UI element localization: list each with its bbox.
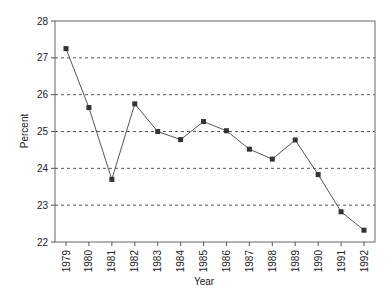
data-point-marker	[293, 137, 298, 142]
x-tick-label: 1988	[267, 250, 278, 273]
y-tick-label: 28	[37, 16, 49, 27]
x-tick-label: 1991	[336, 250, 347, 273]
y-tick-label: 26	[37, 89, 49, 100]
x-tick-label: 1986	[221, 250, 232, 273]
x-axis-ticks: 1979198019811982198319841985198619871988…	[61, 242, 370, 272]
x-tick-label: 1985	[198, 250, 209, 273]
data-point-marker	[224, 128, 229, 133]
x-tick-label: 1982	[129, 250, 140, 273]
data-point-marker	[201, 119, 206, 124]
x-tick-label: 1981	[106, 250, 117, 273]
y-axis-title: Percent	[19, 114, 30, 149]
y-tick-label: 27	[37, 52, 49, 63]
data-point-marker	[155, 129, 160, 134]
line-chart: 22232425262728 1979198019811982198319841…	[0, 0, 392, 301]
data-point-marker	[86, 105, 91, 110]
x-tick-label: 1989	[290, 250, 301, 273]
y-tick-label: 25	[37, 126, 49, 137]
data-point-marker	[362, 228, 367, 233]
y-tick-label: 23	[37, 200, 49, 211]
x-tick-label: 1980	[83, 250, 94, 273]
series-line	[66, 49, 364, 231]
data-point-marker	[339, 209, 344, 214]
x-tick-label: 1984	[175, 250, 186, 273]
data-point-marker	[178, 137, 183, 142]
data-point-marker	[132, 101, 137, 106]
x-tick-label: 1987	[244, 250, 255, 273]
data-point-marker	[270, 157, 275, 162]
x-tick-label: 1990	[313, 250, 324, 273]
data-point-marker	[64, 46, 69, 51]
data-point-marker	[316, 172, 321, 177]
x-tick-label: 1983	[152, 250, 163, 273]
x-tick-label: 1992	[359, 250, 370, 273]
y-tick-label: 22	[37, 237, 49, 248]
data-point-marker	[247, 147, 252, 152]
y-axis-ticks: 22232425262728	[37, 16, 55, 248]
y-gridlines	[55, 58, 375, 205]
x-tick-label: 1979	[61, 250, 72, 273]
data-point-marker	[109, 177, 114, 182]
x-axis-title: Year	[194, 276, 215, 287]
y-tick-label: 24	[37, 163, 49, 174]
